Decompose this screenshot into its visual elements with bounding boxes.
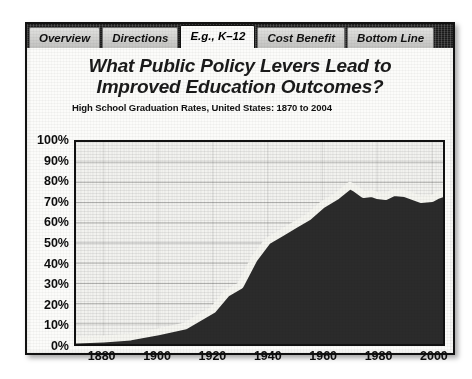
y-tick-100: 100% [37, 133, 69, 147]
x-tick-1980: 1980 [365, 349, 393, 363]
page-title-line-1: What Public Policy Levers Lead to [40, 55, 440, 76]
chart-area: 100%90%80%70%60%50%40%30%20%10%0% 188019… [30, 136, 450, 350]
tab-overview[interactable]: Overview [29, 27, 100, 48]
tab-strip[interactable]: OverviewDirectionsE.g., K–12Cost Benefit… [29, 27, 451, 48]
tab-label: E.g., K–12 [190, 30, 245, 42]
slide-content-sheet: What Public Policy Levers Lead to Improv… [30, 48, 450, 350]
y-tick-20: 20% [44, 298, 69, 312]
y-tick-60: 60% [44, 215, 69, 229]
y-tick-80: 80% [44, 174, 69, 188]
y-tick-10: 10% [44, 318, 69, 332]
y-axis-tick-labels: 100%90%80%70%60%50%40%30%20%10%0% [30, 136, 72, 350]
screenshot-stage: OverviewDirectionsE.g., K–12Cost Benefit… [0, 0, 472, 379]
presentation-slide: OverviewDirectionsE.g., K–12Cost Benefit… [25, 22, 455, 355]
plot-region [74, 140, 445, 346]
tab-label: Directions [112, 32, 168, 44]
x-tick-1900: 1900 [143, 349, 171, 363]
tab-directions[interactable]: Directions [102, 27, 178, 48]
x-tick-1940: 1940 [254, 349, 282, 363]
tab-e-g-k-12[interactable]: E.g., K–12 [180, 25, 255, 48]
chart-subtitle: High School Graduation Rates, United Sta… [72, 102, 450, 113]
area-series-fill [76, 185, 443, 344]
x-tick-1960: 1960 [309, 349, 337, 363]
y-tick-90: 90% [44, 154, 69, 168]
x-tick-1880: 1880 [88, 349, 116, 363]
area-chart-svg [76, 142, 443, 344]
page-title-line-2: Improved Education Outcomes? [40, 76, 440, 97]
tab-label: Bottom Line [357, 32, 424, 44]
tab-label: Overview [39, 32, 90, 44]
tab-cost-benefit[interactable]: Cost Benefit [257, 27, 345, 48]
y-tick-40: 40% [44, 257, 69, 271]
page-title: What Public Policy Levers Lead to Improv… [40, 55, 440, 97]
x-axis-tick-labels: 1880190019201940196019802000 [30, 349, 450, 369]
tab-label: Cost Benefit [267, 32, 335, 44]
x-tick-2000: 2000 [420, 349, 448, 363]
y-tick-50: 50% [44, 236, 69, 250]
y-tick-30: 30% [44, 277, 69, 291]
tab-bottom-line[interactable]: Bottom Line [347, 27, 434, 48]
y-tick-70: 70% [44, 195, 69, 209]
x-tick-1920: 1920 [199, 349, 227, 363]
